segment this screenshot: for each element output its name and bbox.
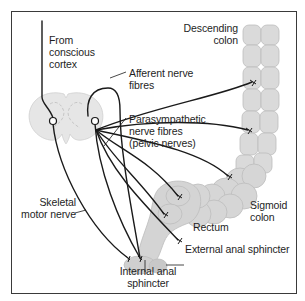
label-sigmoid-colon: Sigmoid colon [250,199,287,223]
label-external-anal-sphincter: External anal sphincter [185,243,290,255]
label-parasympathetic-nerve-fibres: Parasympathetic nerve fibres (pelvic ner… [129,113,206,149]
label-rectum: Rectum [193,221,229,233]
label-internal-anal-sphincter: Internal anal sphincter [113,265,183,289]
label-afferent-nerve-fibres: Afferent nerve fibres [129,67,193,91]
label-skeletal-motor-nerve: Skeletal motor nerve [16,196,76,220]
descending-colon-shape [236,25,279,175]
label-descending-colon: Descending colon [175,22,238,46]
diagram-canvas [0,0,305,301]
spinal-cord-section [29,93,103,144]
label-from-conscious-cortex: From conscious cortex [49,34,95,70]
